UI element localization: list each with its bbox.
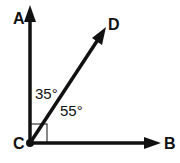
arrowhead-a-icon (24, 5, 36, 22)
angle-label-dcb: 55° (60, 102, 83, 119)
label-a: A (13, 10, 25, 27)
angle-diagram: A D B C 35° 55° (0, 0, 180, 163)
label-c: C (13, 135, 25, 152)
label-b: B (164, 135, 176, 152)
arrowhead-b-icon (144, 137, 161, 149)
vertex-c-dot (26, 139, 34, 147)
diagram-svg: A D B C 35° 55° (0, 0, 180, 163)
label-d: D (108, 16, 120, 33)
angle-label-acd: 35° (35, 85, 58, 102)
